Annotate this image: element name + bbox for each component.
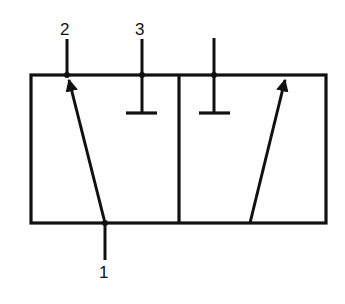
right-flow-arrow [250, 80, 285, 223]
left-flow-arrow [69, 80, 105, 223]
port-2-label: 2 [60, 20, 69, 39]
port-1-label: 1 [99, 263, 108, 282]
port-3-label: 3 [135, 20, 144, 39]
port-2-line [64, 39, 70, 78]
port-1-line [102, 220, 108, 260]
valve-diagram: 2 3 1 [0, 0, 345, 304]
